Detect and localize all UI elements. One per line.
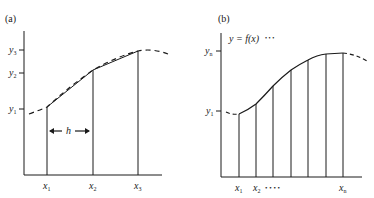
panel-a-x1-label: x1 [42,180,50,192]
panel-b-curve-label-dots: • • • [265,35,274,41]
panel-a-h-arrow: h [49,125,90,136]
panel-b-y1-label: y1 [205,105,213,117]
arrow-left-icon [49,128,54,134]
panel-b-curve-dashed-right [343,53,367,61]
panel-a-y3-label: y3 [8,44,16,56]
panel-b-x2-label: x2 [252,182,260,194]
panel-b-curve-dashed-left [226,112,239,114]
panel-b-xn-label: xn [338,182,346,194]
panel-a-h-label: h [66,125,71,136]
panel-b-label: (b) [218,13,230,25]
panel-b-yn-label: yn [204,45,212,57]
panel-a-y1-label: y1 [8,103,16,115]
panel-b-x-ellipsis: • • • • [265,184,281,192]
arrow-right-icon [85,128,90,134]
panel-b-curve-label: y = f(x) [228,33,260,45]
panel-a-x2-label: x2 [88,180,96,192]
panel-b-x1-label: x1 [234,182,242,194]
panel-b: (b) yn y1 y = f(x) • • • x1 x2 • • • • x… [204,13,367,194]
panel-a-x3-label: x3 [133,180,141,192]
panel-a-y2-label: y2 [8,67,16,79]
panel-a-label: (a) [5,13,16,25]
panel-a: (a) y3 y2 y1 h x1 x2 x3 [5,13,168,192]
